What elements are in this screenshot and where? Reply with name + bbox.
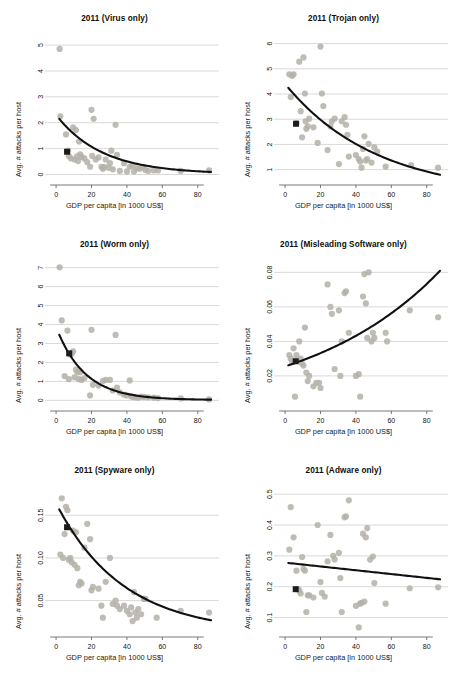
data-point xyxy=(317,43,323,49)
x-tick-label: 20 xyxy=(317,643,325,650)
data-point xyxy=(300,54,306,60)
data-points xyxy=(286,497,441,630)
x-tick-label: 80 xyxy=(423,191,431,198)
x-tick-label: 20 xyxy=(88,643,96,650)
data-point xyxy=(358,165,364,171)
highlight-marker xyxy=(293,121,299,127)
data-point xyxy=(60,555,66,561)
data-point xyxy=(371,580,377,586)
y-tick-label: 0.2 xyxy=(266,582,273,592)
scatter-plot-4: 0.020.040.060.08020406080 xyxy=(229,226,458,452)
x-tick-label: 40 xyxy=(123,643,131,650)
y-tick-label: 7 xyxy=(37,266,44,270)
data-point xyxy=(346,153,352,159)
data-point xyxy=(407,585,413,591)
x-tick-label: 60 xyxy=(387,643,395,650)
data-point xyxy=(87,164,93,170)
y-tick-label: 2 xyxy=(37,360,44,364)
data-point xyxy=(332,556,338,562)
data-point xyxy=(383,601,389,607)
chart-panel-1: 2011 (Virus only)GDP per capita [in 1000… xyxy=(0,0,229,226)
scatter-plot-1: 012345020406080 xyxy=(0,0,229,226)
data-point xyxy=(145,168,151,174)
x-tick-label: 20 xyxy=(88,191,96,198)
data-point xyxy=(305,378,311,384)
scatter-plot-2: 123456020406080 xyxy=(229,0,458,226)
data-point xyxy=(110,166,116,172)
data-point xyxy=(324,147,330,153)
data-point xyxy=(103,579,109,585)
y-tick-label: 6 xyxy=(37,285,44,289)
data-point xyxy=(364,525,370,531)
data-point xyxy=(95,154,101,160)
data-point xyxy=(87,392,93,398)
data-point xyxy=(407,307,413,313)
data-point xyxy=(356,624,362,630)
y-tick-label: 3 xyxy=(37,95,44,99)
data-point xyxy=(59,317,65,323)
data-point xyxy=(95,586,101,592)
data-point xyxy=(293,568,299,574)
data-point xyxy=(343,513,349,519)
x-tick-label: 80 xyxy=(423,643,431,650)
y-tick-label: 5 xyxy=(37,43,44,47)
y-tick-label: 0.5 xyxy=(266,489,273,499)
x-tick-label: 0 xyxy=(283,643,287,650)
data-point xyxy=(292,394,298,400)
chart-panel-2: 2011 (Trojan only)GDP per capita [in 100… xyxy=(229,0,458,226)
data-point xyxy=(90,382,96,388)
data-point xyxy=(435,165,441,171)
x-tick-label: 40 xyxy=(352,191,360,198)
scatter-plot-5: 0.050.100.15020406080 xyxy=(0,452,229,678)
regression-fit-line xyxy=(59,509,211,620)
data-point xyxy=(366,269,372,275)
data-point xyxy=(73,127,79,133)
data-point xyxy=(302,568,308,574)
data-point xyxy=(332,366,338,372)
data-point xyxy=(302,90,308,96)
data-point xyxy=(363,534,369,540)
x-tick-label: 20 xyxy=(317,417,325,424)
data-point xyxy=(299,554,305,560)
data-point xyxy=(300,362,306,368)
x-tick-label: 40 xyxy=(352,417,360,424)
data-point xyxy=(337,575,343,581)
data-point xyxy=(57,264,63,270)
data-point xyxy=(357,394,363,400)
data-point xyxy=(306,373,312,379)
y-tick-label: 0.1 xyxy=(266,613,273,623)
data-point xyxy=(356,371,362,377)
highlight-marker xyxy=(64,524,70,530)
y-tick-label: 1 xyxy=(37,147,44,151)
y-tick-label: 4 xyxy=(37,323,44,327)
chart-panel-3: 2011 (Worm only)GDP per capita [in 1000 … xyxy=(0,226,229,452)
scatter-plot-3: 01234567020406080 xyxy=(0,226,229,452)
data-points xyxy=(57,46,213,175)
data-point xyxy=(117,168,123,174)
x-tick-label: 0 xyxy=(54,191,58,198)
data-point xyxy=(324,558,330,564)
data-point xyxy=(108,148,114,154)
y-tick-label: 0.08 xyxy=(266,265,273,279)
x-tick-label: 80 xyxy=(194,643,202,650)
data-point xyxy=(98,603,104,609)
data-point xyxy=(327,304,333,310)
data-point xyxy=(303,609,309,615)
y-tick-label: 0.04 xyxy=(266,334,273,348)
data-point xyxy=(88,327,94,333)
data-point xyxy=(361,598,367,604)
y-tick-label: 0.3 xyxy=(266,551,273,561)
regression-fit-line xyxy=(59,335,211,400)
x-tick-label: 40 xyxy=(123,417,131,424)
data-point xyxy=(346,497,352,503)
chart-panel-6: 2011 (Adware only)GDP per capita [in 100… xyxy=(229,452,458,678)
y-tick-label: 0.05 xyxy=(37,594,44,608)
data-point xyxy=(317,579,323,585)
data-point xyxy=(64,507,70,513)
data-point xyxy=(296,338,302,344)
data-point xyxy=(298,108,304,114)
data-point xyxy=(324,281,330,287)
data-point xyxy=(154,615,160,621)
x-tick-label: 0 xyxy=(283,191,287,198)
data-point xyxy=(336,550,342,556)
